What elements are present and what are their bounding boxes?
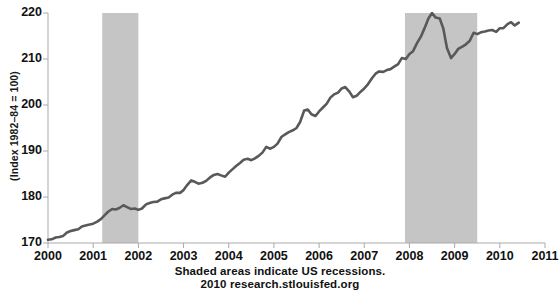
footer-source: 2010 research.stlouisfed.org bbox=[0, 278, 560, 290]
plot-area bbox=[0, 0, 560, 294]
footer-recession-note: Shaded areas indicate US recessions. bbox=[0, 265, 560, 277]
cpi-line-chart: (Index 1982–84 = 100) 170180190200210220… bbox=[0, 0, 560, 294]
recession-shading-group bbox=[102, 13, 477, 243]
